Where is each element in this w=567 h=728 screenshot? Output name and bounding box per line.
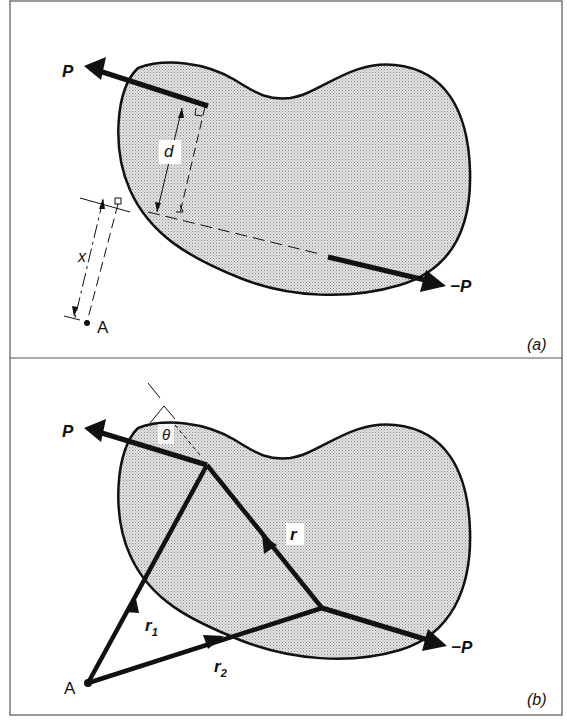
right-angle-mark-x [115,198,121,204]
dimension-x-arrow-bottom [72,306,78,317]
label-point-a-a: A [97,318,109,337]
couple-diagram: P −P d x A (a) [0,0,567,728]
label-neg-p-a: −P [450,277,472,296]
label-p-a: P [62,62,74,81]
label-x: x [77,248,87,265]
extension-line-bottom [64,316,80,320]
angle-construction-line [148,383,160,398]
caption-a: (a) [527,336,547,353]
panel-a: P −P d x A (a) [62,57,547,353]
angle-arc-theta [150,406,175,423]
label-point-a-b: A [64,679,76,698]
rigid-body-a [118,63,470,295]
label-p-b: P [62,422,74,441]
label-d: d [164,142,174,161]
caption-b: (b) [527,691,547,708]
label-neg-p-b: −P [451,638,473,657]
panel-b: θ P r r1 r2 −P A (b) [62,383,547,708]
point-a-marker-a [84,320,90,326]
label-r1: r1 [145,616,158,638]
dashed-perpendicular-to-a [87,204,118,322]
point-a-marker-b [84,679,92,687]
force-p-arrowhead-b [84,419,106,442]
extension-line-top [80,198,130,212]
force-p-arrowhead-a [84,57,106,80]
label-r2: r2 [214,657,227,679]
label-theta: θ [162,426,170,443]
